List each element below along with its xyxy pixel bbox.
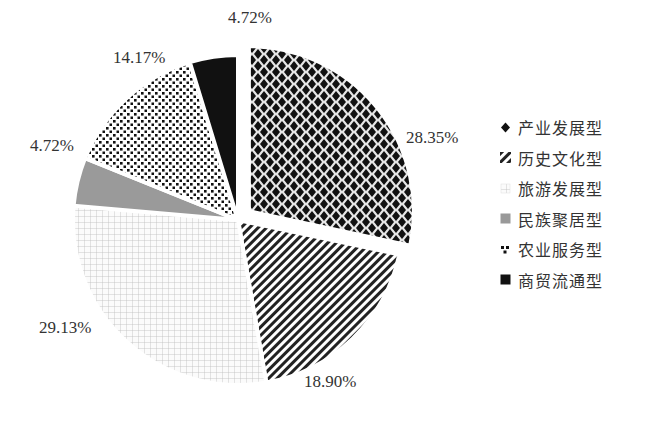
- value-label-商贸流通型: 4.72%: [228, 8, 272, 28]
- value-label-民族聚居型: 4.72%: [30, 136, 74, 156]
- legend-item-产业发展型: 产业发展型: [500, 112, 603, 143]
- grid-pattern-icon: [500, 183, 511, 194]
- dot-pattern-icon: [500, 244, 511, 255]
- pie-slice-旅游发展型: [73, 206, 266, 385]
- value-label-农业服务型: 14.17%: [113, 48, 165, 68]
- diamond-pattern-icon: [500, 122, 511, 133]
- gray-square-icon: [500, 213, 511, 224]
- pie-slice-产业发展型: [249, 46, 414, 246]
- legend-item-民族聚居型: 民族聚居型: [500, 204, 603, 235]
- black-square-icon: [500, 274, 511, 285]
- chart-legend: 产业发展型 历史文化型 旅游发展型 民族聚居型 农业服务型 商贸流通型: [500, 112, 603, 295]
- value-label-历史文化型: 18.90%: [304, 372, 356, 392]
- legend-item-旅游发展型: 旅游发展型: [500, 173, 603, 204]
- legend-item-商贸流通型: 商贸流通型: [500, 265, 603, 296]
- legend-item-农业服务型: 农业服务型: [500, 234, 603, 265]
- legend-item-历史文化型: 历史文化型: [500, 143, 603, 174]
- value-label-产业发展型: 28.35%: [406, 128, 458, 148]
- value-label-旅游发展型: 29.13%: [39, 318, 91, 338]
- stripe-pattern-icon: [500, 152, 511, 163]
